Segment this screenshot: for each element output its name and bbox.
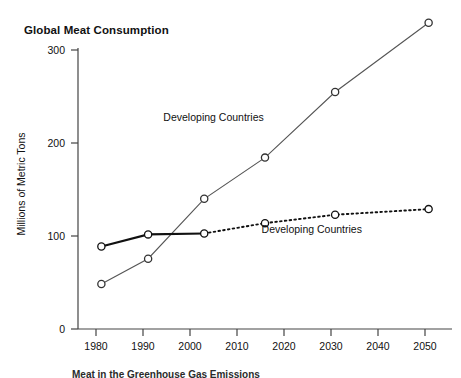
- plot-area: 300 200 100 0 1980 1990 2000 2010 2020 2…: [0, 0, 461, 378]
- x-tick-label-1990: 1990: [131, 340, 155, 352]
- y-axis-ticks: [71, 50, 78, 329]
- y-tick-label-100: 100: [47, 230, 65, 242]
- x-tick-label-2000: 2000: [178, 340, 202, 352]
- x-tick-label-2020: 2020: [272, 340, 296, 352]
- data-point-marker: [98, 280, 105, 287]
- y-tick-label-200: 200: [47, 137, 65, 149]
- data-point-marker: [261, 154, 268, 161]
- figure-caption: Meat in the Greenhouse Gas Emissions: [72, 369, 260, 378]
- x-tick-label-2010: 2010: [225, 340, 249, 352]
- series-layer: [98, 19, 432, 288]
- series-developing: [98, 19, 432, 288]
- chart-figure: Global Meat Consumption Millions of Metr…: [0, 0, 461, 378]
- series-developed-solid-segment: [101, 233, 204, 246]
- x-tick-label-2030: 2030: [319, 340, 343, 352]
- x-tick-label-2040: 2040: [366, 340, 390, 352]
- data-point-marker: [332, 88, 339, 95]
- x-axis-ticks: [96, 329, 425, 336]
- data-point-marker: [145, 255, 152, 262]
- data-point-marker: [425, 206, 432, 213]
- data-point-marker: [201, 230, 208, 237]
- x-tick-label-2050: 2050: [413, 340, 437, 352]
- x-tick-label-1980: 1980: [84, 340, 108, 352]
- series-label-developing-lower: Developing Countries: [262, 223, 362, 235]
- series-label-developing-upper: Developing Countries: [163, 111, 263, 123]
- data-point-marker: [201, 195, 208, 202]
- y-tick-label-300: 300: [47, 44, 65, 56]
- data-point-marker: [425, 19, 432, 26]
- data-point-marker: [145, 231, 152, 238]
- data-point-marker: [98, 243, 105, 250]
- y-tick-label-0: 0: [59, 323, 65, 335]
- data-point-marker: [332, 211, 339, 218]
